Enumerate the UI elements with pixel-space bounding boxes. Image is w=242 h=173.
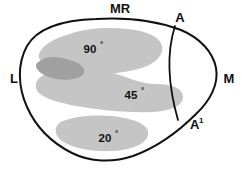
label-a: A — [175, 10, 185, 25]
label-a-prime-superscript: 1 — [199, 116, 204, 125]
angle-label-20-degree: ° — [115, 129, 118, 138]
label-mr: MR — [110, 1, 131, 16]
angle-label-90-degree: ° — [100, 40, 103, 49]
cross-section-diagram: MR L M A A 1 90 ° 45 ° 20 ° — [0, 0, 242, 173]
angle-label-90-value: 90 — [84, 43, 97, 55]
label-l: L — [10, 71, 18, 86]
angle-label-20-value: 20 — [99, 132, 112, 144]
angle-label-45-value: 45 — [125, 89, 138, 101]
figure-container: MR L M A A 1 90 ° 45 ° 20 ° — [0, 0, 242, 173]
label-m: M — [224, 71, 235, 86]
angle-label-45-degree: ° — [141, 86, 144, 95]
